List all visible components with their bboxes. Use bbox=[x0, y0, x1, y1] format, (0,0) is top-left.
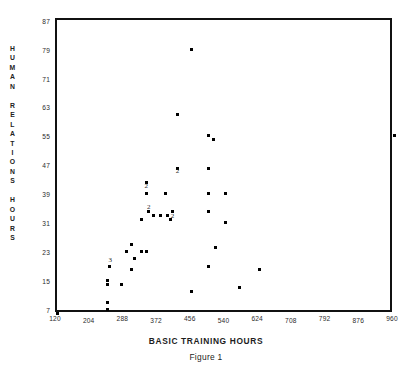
data-point-count-label: 2 bbox=[176, 168, 180, 175]
x-axis-tick-labels: 120204288372456540624708792876960 bbox=[0, 316, 412, 328]
data-point bbox=[166, 214, 169, 217]
y-tick-label: 63 bbox=[26, 105, 50, 112]
y-tick-label: 71 bbox=[26, 77, 50, 84]
data-point bbox=[159, 214, 162, 217]
y-tick-label: 87 bbox=[26, 19, 50, 26]
y-tick-label: 7 bbox=[26, 308, 50, 315]
data-point-count-label: 2 bbox=[145, 183, 149, 190]
y-axis-title-letter: H bbox=[6, 44, 19, 53]
data-point bbox=[106, 279, 109, 282]
data-point bbox=[207, 192, 210, 195]
y-axis-title-letter: I bbox=[6, 148, 19, 157]
y-tick-label: 39 bbox=[26, 192, 50, 199]
data-point bbox=[106, 308, 109, 311]
figure-caption: Figure 1 bbox=[0, 352, 412, 362]
y-axis-title-letter: S bbox=[6, 176, 19, 185]
scatter-plot-area: 22223 bbox=[57, 20, 390, 310]
y-axis-title-letter: E bbox=[6, 110, 19, 119]
data-point-count-label: 2 bbox=[147, 204, 151, 211]
data-point bbox=[164, 192, 167, 195]
y-axis-title-letter: R bbox=[6, 224, 19, 233]
data-point bbox=[152, 214, 155, 217]
data-point-count-label: 2 bbox=[171, 213, 175, 220]
data-point bbox=[140, 250, 143, 253]
data-point bbox=[214, 246, 217, 249]
data-point bbox=[393, 134, 396, 137]
clipped-header-text: DISTRIBUTION OF BASIC TRAINING AND HUMAN… bbox=[128, 0, 396, 2]
data-point bbox=[106, 301, 109, 304]
data-point bbox=[176, 113, 179, 116]
y-axis-title-letter: M bbox=[6, 63, 19, 72]
y-tick-label: 79 bbox=[26, 48, 50, 55]
data-point bbox=[207, 210, 210, 213]
y-axis-tick-labels: 877971635547393123157 bbox=[22, 0, 50, 370]
data-point-count-label: 3 bbox=[108, 257, 112, 264]
y-tick-label: 47 bbox=[26, 163, 50, 170]
y-tick-label: 31 bbox=[26, 221, 50, 228]
y-axis-title-letter: N bbox=[6, 82, 19, 91]
data-point bbox=[212, 138, 215, 141]
y-axis-title-letter: A bbox=[6, 72, 19, 81]
data-point bbox=[133, 257, 136, 260]
data-point bbox=[207, 167, 210, 170]
y-axis-title-letter: R bbox=[6, 101, 19, 110]
data-point bbox=[207, 134, 210, 137]
y-tick-label: 23 bbox=[26, 250, 50, 257]
x-axis-title: BASIC TRAINING HOURS bbox=[0, 336, 412, 346]
y-axis-title-letter: O bbox=[6, 157, 19, 166]
y-axis-title-letter: S bbox=[6, 233, 19, 242]
data-point bbox=[106, 283, 109, 286]
data-point bbox=[190, 48, 193, 51]
data-point bbox=[130, 268, 133, 271]
y-axis-title-letter: L bbox=[6, 120, 19, 129]
plot-frame: 22223 bbox=[55, 18, 392, 312]
data-point bbox=[120, 283, 123, 286]
x-tick-label: 960 bbox=[372, 316, 412, 323]
data-point bbox=[238, 286, 241, 289]
y-axis-title-letter: H bbox=[6, 195, 19, 204]
data-point bbox=[125, 250, 128, 253]
data-point bbox=[108, 265, 111, 268]
data-point bbox=[145, 250, 148, 253]
clipped-header: DISTRIBUTION OF BASIC TRAINING AND HUMAN… bbox=[0, 0, 412, 10]
y-axis-title: HUMAN·RELATIONS·HOURS bbox=[6, 44, 19, 243]
data-point bbox=[224, 221, 227, 224]
data-point bbox=[145, 192, 148, 195]
y-axis-title-letter: U bbox=[6, 214, 19, 223]
data-point bbox=[190, 290, 193, 293]
y-axis-title-letter: T bbox=[6, 139, 19, 148]
y-axis-title-letter: U bbox=[6, 53, 19, 62]
data-point bbox=[140, 218, 143, 221]
y-tick-label: 55 bbox=[26, 134, 50, 141]
y-axis-title-letter: A bbox=[6, 129, 19, 138]
y-tick-label: 15 bbox=[26, 279, 50, 286]
data-point bbox=[207, 265, 210, 268]
data-point bbox=[258, 268, 261, 271]
y-axis-title-letter: N bbox=[6, 167, 19, 176]
y-axis-title-letter: O bbox=[6, 205, 19, 214]
data-point bbox=[130, 243, 133, 246]
data-point bbox=[224, 192, 227, 195]
